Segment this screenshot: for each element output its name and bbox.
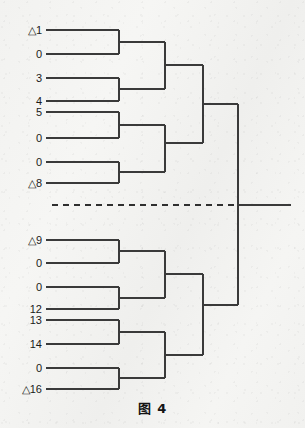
leaf-label-13: 14: [0, 339, 42, 350]
leaf-label-6: 0: [0, 157, 42, 168]
leaf-label-10: 0: [0, 282, 42, 293]
leaf-label-7: △8: [0, 178, 42, 189]
leaf-label-9: 0: [0, 258, 42, 269]
leaf-label-4: 5: [0, 107, 42, 118]
leaf-label-14: 0: [0, 363, 42, 374]
leaf-label-5: 0: [0, 133, 42, 144]
leaf-label-8: △9: [0, 235, 42, 246]
figure-container: △1034500△8△9001213140△16 图 4: [0, 0, 305, 428]
leaf-label-0: △1: [0, 25, 42, 36]
merge-link-group: [119, 30, 238, 389]
leaf-label-2: 3: [0, 73, 42, 84]
dendrogram-chart: [0, 0, 305, 428]
leaf-label-15: △16: [0, 384, 42, 395]
leaf-label-12: 13: [0, 315, 42, 326]
figure-caption: 图 4: [0, 398, 305, 417]
leaf-label-1: 0: [0, 49, 42, 60]
leaf-line-group: [46, 30, 119, 389]
